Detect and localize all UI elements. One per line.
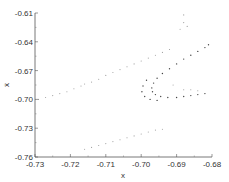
data-point (141, 133, 142, 134)
data-point (141, 91, 142, 92)
data-point (156, 100, 157, 101)
data-point (112, 141, 113, 142)
data-point (66, 91, 67, 92)
data-point (148, 58, 149, 59)
data-point (142, 85, 143, 86)
data-point (149, 99, 150, 100)
data-point (169, 49, 170, 50)
y-tick-label: -0.61 (15, 9, 34, 18)
data-point (183, 14, 184, 15)
data-point (208, 44, 209, 45)
x-tick-label: -0.72 (61, 160, 80, 169)
data-point (146, 80, 147, 81)
data-point (119, 139, 120, 140)
data-point (84, 83, 85, 84)
data-point (176, 97, 177, 98)
x-axis-ticks: -0.73-0.72-0.71-0.70-0.69-0.68 (26, 154, 222, 169)
data-point (183, 22, 184, 23)
data-point (59, 93, 60, 94)
data-point (162, 129, 163, 130)
data-point (148, 131, 149, 132)
x-tick-label: -0.68 (203, 160, 222, 169)
data-point (173, 84, 174, 85)
data-points (38, 14, 209, 150)
data-point (167, 97, 168, 98)
data-point (112, 72, 113, 73)
y-tick-label: -0.70 (15, 95, 34, 104)
data-point (197, 51, 198, 52)
data-point (176, 63, 177, 64)
x-tick-label: -0.69 (167, 160, 186, 169)
data-point (197, 90, 198, 91)
data-point (155, 130, 156, 131)
data-point (160, 96, 161, 97)
data-point (141, 60, 142, 61)
y-axis-ticks: -0.61-0.64-0.67-0.70-0.73-0.76 (15, 9, 38, 162)
scatter-chart: -0.73-0.72-0.71-0.70-0.69-0.68 -0.61-0.6… (0, 0, 229, 182)
data-point (155, 55, 156, 56)
data-point (187, 26, 188, 27)
data-point (73, 88, 74, 89)
data-point (105, 75, 106, 76)
data-point (144, 96, 145, 97)
data-point (134, 63, 135, 64)
data-point (180, 29, 181, 30)
data-point (91, 82, 92, 83)
data-point (183, 58, 184, 59)
data-point (52, 95, 53, 96)
data-point (153, 82, 154, 83)
data-point (38, 99, 39, 100)
y-tick-label: -0.73 (15, 124, 34, 133)
data-point (98, 79, 99, 80)
data-point (183, 89, 184, 90)
x-tick-label: -0.70 (132, 160, 151, 169)
data-point (155, 94, 156, 95)
data-point (105, 143, 106, 144)
data-point (197, 94, 198, 95)
data-point (91, 147, 92, 148)
data-point (162, 52, 163, 53)
data-point (119, 69, 120, 70)
data-point (162, 73, 163, 74)
data-point (204, 47, 205, 48)
y-tick-label: -0.67 (15, 67, 34, 76)
data-point (134, 135, 135, 136)
y-tick-label: -0.64 (15, 38, 34, 47)
data-point (84, 149, 85, 150)
data-point (152, 91, 153, 92)
data-point (126, 66, 127, 67)
data-point (126, 137, 127, 138)
data-point (169, 68, 170, 69)
data-point (151, 87, 152, 88)
y-axis-label: ẋ (2, 83, 11, 87)
data-point (190, 55, 191, 56)
data-point (190, 95, 191, 96)
data-point (190, 89, 191, 90)
y-tick-label: -0.76 (15, 153, 34, 162)
data-point (80, 85, 81, 86)
data-point (156, 78, 157, 79)
data-point (98, 145, 99, 146)
x-axis-label: x (121, 171, 125, 180)
data-point (45, 97, 46, 98)
x-tick-label: -0.71 (97, 160, 116, 169)
data-point (204, 93, 205, 94)
data-point (183, 96, 184, 97)
